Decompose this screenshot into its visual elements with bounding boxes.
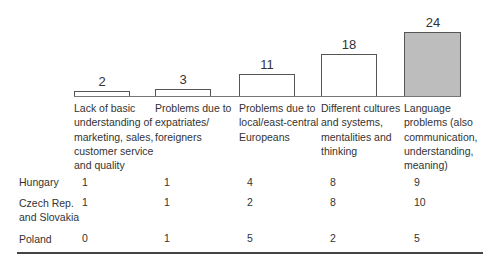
table-cell: 1 xyxy=(82,176,88,188)
row-label-poland: Poland xyxy=(19,232,52,246)
category-line: understanding, xyxy=(404,144,484,158)
row-label-line: Czech Rep. xyxy=(19,196,79,210)
table-cell: 9 xyxy=(414,176,420,188)
category-line: expatriates/ xyxy=(155,115,235,129)
category-label: Language problems (also communication, u… xyxy=(404,101,484,172)
bar-value-label: 24 xyxy=(403,15,463,30)
bar-value-label: 11 xyxy=(237,57,297,72)
category-line: Europeans xyxy=(239,130,319,144)
category-label: Lack of basic understanding of marketing… xyxy=(74,101,154,172)
category-line: understanding of xyxy=(74,115,154,129)
category-line: Language xyxy=(404,101,484,115)
category-line: Lack of basic xyxy=(74,101,154,115)
category-line: Problems due to xyxy=(239,101,319,115)
table-cell: 1 xyxy=(82,196,88,208)
row-label-line: and Slovakia xyxy=(19,210,79,224)
table-cell: 8 xyxy=(330,196,336,208)
category-line: mentalities and xyxy=(321,130,401,144)
table-cell: 1 xyxy=(164,232,170,244)
table-cell: 4 xyxy=(247,176,253,188)
chart-baseline xyxy=(74,96,461,97)
row-label-line: Hungary xyxy=(19,175,59,189)
row-label-czech-slovakia: Czech Rep. and Slovakia xyxy=(19,196,79,224)
category-line: communication, xyxy=(404,130,484,144)
table-cell: 2 xyxy=(330,232,336,244)
category-line: local/east-central xyxy=(239,115,319,129)
table-cell: 1 xyxy=(164,176,170,188)
row-label-line: Poland xyxy=(19,232,52,246)
category-line: problems (also xyxy=(404,115,484,129)
category-line: Different cultures xyxy=(321,101,401,115)
category-label: Problems due to expatriates/ foreigners xyxy=(155,101,235,144)
bar-local-europeans xyxy=(239,74,295,97)
table-cell: 5 xyxy=(414,232,420,244)
row-label-hungary: Hungary xyxy=(19,175,59,189)
table-cell: 0 xyxy=(82,232,88,244)
bar-value-label: 3 xyxy=(153,72,213,87)
table-cell: 5 xyxy=(247,232,253,244)
table-cell: 2 xyxy=(247,196,253,208)
table-cell: 8 xyxy=(330,176,336,188)
category-line: foreigners xyxy=(155,130,235,144)
bar-language xyxy=(404,32,461,97)
category-line: and quality xyxy=(74,158,154,172)
category-label: Different cultures and systems, mentalit… xyxy=(321,101,401,158)
category-line: thinking xyxy=(321,144,401,158)
category-line: and systems, xyxy=(321,115,401,129)
table-cell: 10 xyxy=(414,196,426,208)
category-line: marketing, sales, xyxy=(74,130,154,144)
bar-value-label: 2 xyxy=(72,74,132,89)
category-line: customer service xyxy=(74,144,154,158)
bottom-rule xyxy=(17,252,483,254)
category-label: Problems due to local/east-central Europ… xyxy=(239,101,319,144)
table-cell: 1 xyxy=(164,196,170,208)
bar-value-label: 18 xyxy=(319,37,379,52)
category-line: Problems due to xyxy=(155,101,235,115)
bar-cultures xyxy=(321,54,377,97)
category-line: meaning) xyxy=(404,158,484,172)
